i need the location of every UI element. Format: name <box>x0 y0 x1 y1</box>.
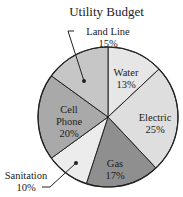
label-cellphone-value: 20% <box>59 128 79 139</box>
sanitation-leader-dot <box>74 161 78 165</box>
pie-chart: Water 13% Electric 25% Gas 17% Cell Phon… <box>0 0 183 197</box>
label-electric-name: Electric <box>139 112 172 123</box>
label-water-value: 13% <box>116 79 136 90</box>
label-sanitation-name: Sanitation <box>5 170 48 181</box>
label-landline-name: Land Line <box>86 26 130 37</box>
label-gas-value: 17% <box>105 170 125 181</box>
landline-leader-dot <box>82 79 86 83</box>
label-landline-value: 15% <box>98 38 118 49</box>
label-sanitation-value: 10% <box>16 182 36 193</box>
label-cellphone-line1: Cell <box>60 104 78 115</box>
label-cellphone-line2: Phone <box>56 116 83 127</box>
label-gas-name: Gas <box>107 158 123 169</box>
label-water-name: Water <box>114 67 139 78</box>
label-electric-value: 25% <box>145 124 165 135</box>
